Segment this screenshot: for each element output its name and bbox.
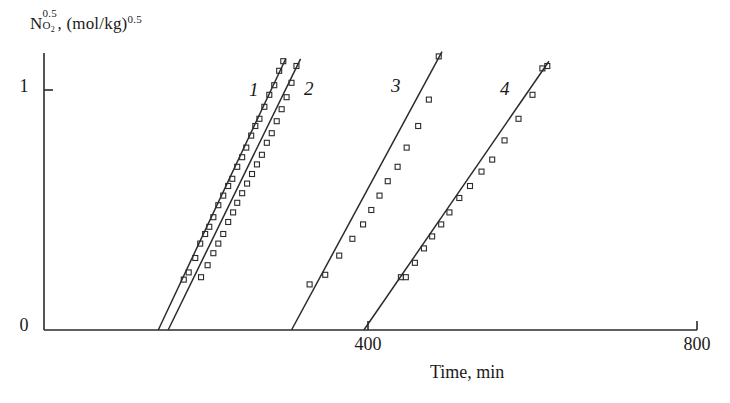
- data-point-marker: [235, 200, 240, 205]
- data-point-marker: [259, 152, 264, 157]
- series-1: [158, 59, 286, 330]
- y-axis-unit-superscript: 0.5: [127, 13, 141, 25]
- data-point-marker: [426, 97, 431, 102]
- y-axis-unit: (mol/kg): [66, 14, 127, 33]
- data-point-marker: [502, 138, 507, 143]
- data-point-marker: [264, 140, 269, 145]
- x-tick-label-400: 400: [342, 334, 394, 355]
- series-4: [364, 61, 550, 330]
- series-label-3: 3: [391, 75, 401, 97]
- data-point-marker: [216, 241, 221, 246]
- data-point-marker: [412, 260, 417, 265]
- data-point-marker: [350, 236, 355, 241]
- fit-line-3: [292, 52, 443, 330]
- data-point-marker: [361, 222, 366, 227]
- data-point-marker: [250, 172, 255, 177]
- data-point-marker: [307, 282, 312, 287]
- data-point-marker: [490, 157, 495, 162]
- y-axis-superscript: 0.5: [42, 7, 56, 19]
- data-point-marker: [274, 119, 279, 124]
- fit-line-1: [158, 59, 285, 330]
- y-tick-label-0: 0: [14, 315, 34, 336]
- y-axis-script-stack: 0.5O2: [42, 12, 57, 29]
- y-axis-subscript: O2: [42, 19, 54, 34]
- data-point-marker: [479, 169, 484, 174]
- fit-line-2: [168, 59, 300, 330]
- data-point-marker: [323, 272, 328, 277]
- x-axis-title: Time, min: [430, 362, 504, 383]
- y-axis-title: N0.5O2, (mol/kg)0.5: [30, 12, 142, 34]
- chart-figure: N0.5O2, (mol/kg)0.5 Time, min 0 1 400 80…: [0, 0, 730, 403]
- data-point-marker: [337, 253, 342, 258]
- data-point-marker: [395, 164, 400, 169]
- data-point-marker: [530, 92, 535, 97]
- x-tick-label-800: 800: [671, 334, 723, 355]
- data-point-marker: [240, 191, 245, 196]
- y-tick-label-1: 1: [14, 76, 34, 97]
- axes-lines: [44, 53, 697, 330]
- data-point-marker: [385, 179, 390, 184]
- data-point-marker: [377, 193, 382, 198]
- data-point-marker: [467, 184, 472, 189]
- data-point-marker: [231, 210, 236, 215]
- series-label-4: 4: [500, 78, 510, 100]
- data-series-group: [158, 52, 550, 330]
- series-3: [292, 52, 443, 330]
- series-label-2: 2: [304, 78, 314, 100]
- data-point-marker: [279, 107, 284, 112]
- data-point-marker: [439, 222, 444, 227]
- data-point-marker: [245, 181, 250, 186]
- data-point-marker: [205, 263, 210, 268]
- data-point-marker: [211, 251, 216, 256]
- series-label-1: 1: [249, 79, 259, 101]
- data-point-marker: [199, 275, 204, 280]
- data-point-marker: [284, 95, 289, 100]
- data-point-marker: [369, 208, 374, 213]
- data-point-marker: [516, 116, 521, 121]
- data-point-marker: [269, 131, 274, 136]
- data-point-marker: [416, 124, 421, 129]
- data-point-marker: [457, 196, 462, 201]
- y-axis-symbol: N: [30, 14, 42, 33]
- data-point-marker: [254, 162, 259, 167]
- series-2: [168, 59, 300, 330]
- data-point-marker: [403, 275, 408, 280]
- data-point-marker: [404, 145, 409, 150]
- data-point-marker: [447, 210, 452, 215]
- data-point-marker: [226, 220, 231, 225]
- data-point-marker: [221, 232, 226, 237]
